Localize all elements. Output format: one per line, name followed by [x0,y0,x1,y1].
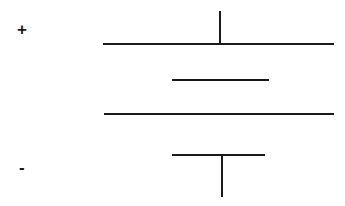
battery-symbol-svg [0,0,345,206]
positive-terminal-label: + [17,21,27,38]
battery-symbol-diagram: + - [0,0,345,206]
negative-terminal-label: - [19,159,25,176]
